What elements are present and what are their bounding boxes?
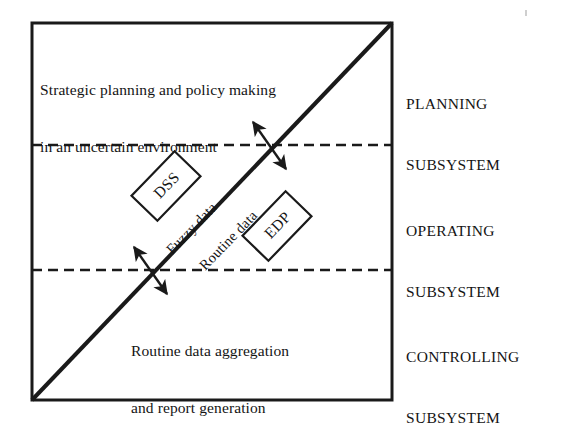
operating-subsystem-label-line-1: OPERATING [406,221,500,241]
planning-caption-line-1: Strategic planning and policy making [40,81,276,100]
planning-subsystem-label: PLANNING SUBSYSTEM [406,54,500,195]
scan-artifact [525,10,527,16]
controlling-subsystem-label-line-2: SUBSYSTEM [406,408,520,426]
controlling-caption-line-2: and report generation [131,399,289,418]
operating-subsystem-label: OPERATING SUBSYSTEM [406,181,500,322]
planning-caption: Strategic planning and policy making in … [40,43,276,175]
controlling-subsystem-label: CONTROLLING SUBSYSTEM [406,307,520,426]
controlling-caption-line-1: Routine data aggregation [131,342,289,361]
operating-subsystem-label-line-2: SUBSYSTEM [406,282,500,302]
planning-caption-line-2: in an uncertain environment [40,138,276,157]
controlling-subsystem-label-line-1: CONTROLLING [406,347,520,367]
planning-subsystem-label-line-1: PLANNING [406,94,500,114]
planning-subsystem-label-line-2: SUBSYSTEM [406,155,500,175]
controlling-caption: Routine data aggregation and report gene… [131,304,289,426]
